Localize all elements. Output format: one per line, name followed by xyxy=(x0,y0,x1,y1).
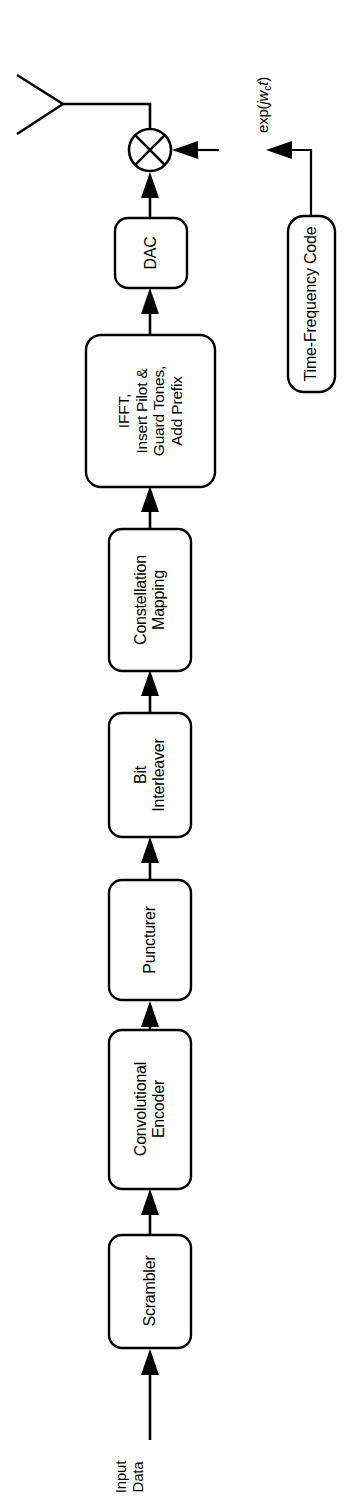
arrow-encoder-to-puncturer xyxy=(141,1001,159,1029)
line-mixer-to-antenna xyxy=(63,104,150,129)
arrow-interleaver-to-constellation xyxy=(141,670,159,712)
block-diagram: Input Data Scrambler Convolutional Encod… xyxy=(0,0,351,1509)
antenna-icon xyxy=(17,75,63,134)
arrow-constellation-to-ifft xyxy=(141,486,159,528)
carrier-prefix: exp( xyxy=(254,105,271,133)
constellation-mapping-line-1: Constellation xyxy=(132,555,150,645)
scrambler-line-1: Scrambler xyxy=(141,1255,159,1326)
constellation-mapping-line-2: Mapping xyxy=(150,555,168,645)
bit-interleaver-line-2: Interleaver xyxy=(150,738,168,811)
block-label-bit-interleaver: Bit Interleaver xyxy=(132,738,168,811)
dac-line-1: DAC xyxy=(142,236,160,269)
ifft-line-1: IFFT, xyxy=(115,366,133,456)
diagram-canvas xyxy=(0,0,351,1509)
block-label-dac: DAC xyxy=(142,236,160,269)
arrow-tfcode-to-carrier xyxy=(266,141,311,215)
carrier-t: t xyxy=(254,82,271,86)
time-frequency-code-line-1: Time-Frequency Code xyxy=(302,227,320,382)
arrow-puncturer-to-interleaver xyxy=(141,837,159,879)
arrow-input-to-scrambler xyxy=(141,1349,159,1440)
carrier-expression-label: exp(jwct) xyxy=(254,77,274,133)
puncturer-line-1: Puncturer xyxy=(141,906,159,974)
block-label-scrambler: Scrambler xyxy=(141,1255,159,1326)
carrier-j: j xyxy=(254,101,271,104)
block-label-ifft-insert-pilot: IFFT, Insert Pilot & Guard Tones, Add Pr… xyxy=(115,366,186,456)
input-data-line-2: Data xyxy=(129,1461,146,1493)
arrow-carrier-to-mixer xyxy=(172,141,219,159)
convolutional-encoder-line-1: Convolutional xyxy=(132,1062,150,1156)
carrier-w: w xyxy=(254,91,271,102)
mixer-symbol xyxy=(129,129,171,171)
input-data-line-1: Input xyxy=(112,1461,129,1493)
ifft-line-4: Add Prefix xyxy=(168,366,186,456)
input-data-label: Input Data xyxy=(112,1461,146,1493)
block-label-time-frequency-code: Time-Frequency Code xyxy=(302,227,320,382)
arrow-dac-to-mixer xyxy=(141,172,159,217)
carrier-subscript: c xyxy=(261,86,273,91)
ifft-line-3: Guard Tones, xyxy=(150,366,168,456)
block-label-convolutional-encoder: Convolutional Encoder xyxy=(132,1062,168,1156)
arrow-scrambler-to-encoder xyxy=(141,1189,159,1234)
convolutional-encoder-line-2: Encoder xyxy=(150,1062,168,1156)
arrow-ifft-to-dac xyxy=(141,288,159,334)
carrier-expression: exp(jwct) xyxy=(254,77,274,133)
block-label-puncturer: Puncturer xyxy=(141,906,159,974)
carrier-suffix: ) xyxy=(254,77,271,82)
bit-interleaver-line-1: Bit xyxy=(132,738,150,811)
ifft-line-2: Insert Pilot & xyxy=(132,366,150,456)
block-label-constellation-mapping: Constellation Mapping xyxy=(132,555,168,645)
